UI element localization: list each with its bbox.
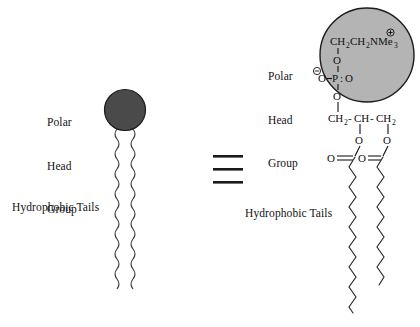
- left-polar-head-label-line-1: Polar: [47, 115, 77, 130]
- left-polar-head-label-line-2: Head: [47, 159, 77, 174]
- glycerol-ch-center: CH: [354, 112, 369, 124]
- equivalence-bar-middle: [213, 168, 243, 171]
- right-hydrophobic-tail-1: [349, 157, 356, 313]
- ester-oxygen-left: O: [355, 134, 363, 146]
- phosphate-right-oxygen: O: [345, 72, 353, 84]
- left-hydrophobic-tail-2: [131, 129, 135, 289]
- phosphorus-atom: P: [332, 72, 338, 84]
- phosphate-top-oxygen: O: [333, 54, 341, 66]
- glycerol-backbone: CH 2 - CH - CH 2: [328, 112, 396, 127]
- glycerol-ch2-left: CH: [328, 112, 343, 124]
- carbonyl-oxygen-right: O: [358, 152, 366, 164]
- right-hydrophobic-tails-label: Hydrophobic Tails: [245, 206, 332, 221]
- choline-nme-sub: 3: [394, 41, 398, 50]
- right-polar-head-label-line-1: Polar: [268, 69, 298, 84]
- right-hydrophobic-tail-2: [377, 157, 384, 285]
- choline-ch2-b: CH: [350, 35, 365, 47]
- ester-oxygen-right: O: [383, 134, 391, 146]
- right-structure-group: CH 2 CH 2 NMe 3 O O P : O: [313, 8, 414, 313]
- glycerol-ch2-right-sub: 2: [392, 118, 396, 127]
- phosphate-double-bond-notation: :: [340, 72, 343, 84]
- equivalence-bar-bottom: [213, 181, 243, 184]
- glycerol-bond-dash-left: -: [348, 112, 352, 124]
- choline-ch2-a: CH: [330, 35, 345, 47]
- equivalence-sign: [213, 155, 243, 184]
- phosphate-bottom-oxygen: O: [333, 90, 341, 102]
- carbonyl-oxygen-left: O: [327, 152, 335, 164]
- right-polar-head-label-line-2: Head: [268, 113, 298, 128]
- phosphate-left-oxygen: O: [318, 72, 326, 84]
- right-polar-head-label-line-3: Group: [268, 156, 298, 171]
- left-polar-head-circle: [105, 90, 146, 131]
- glycerol-bond-dash-right: -: [370, 112, 374, 124]
- glycerol-ch2-right: CH: [376, 112, 391, 124]
- left-schematic-group: [105, 90, 146, 290]
- left-hydrophobic-tail-1: [115, 129, 119, 289]
- equivalence-bar-top: [213, 155, 243, 158]
- choline-nme: NMe: [370, 35, 393, 47]
- bond-ester-o-to-carbonyl-right: [383, 146, 388, 156]
- left-hydrophobic-tails-label: Hydrophobic Tails: [12, 200, 99, 215]
- right-polar-head-label: Polar Head Group: [268, 40, 298, 185]
